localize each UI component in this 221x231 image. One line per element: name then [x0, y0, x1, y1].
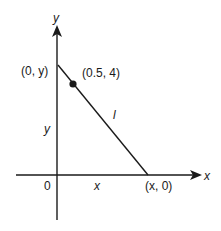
vertical-length-label: y — [43, 122, 51, 136]
point-marker — [69, 80, 76, 87]
line-l-label: l — [113, 108, 116, 122]
y-axis-label: y — [52, 11, 60, 25]
coordinate-diagram: y x 0 (0, y) (0.5, 4) (x, 0) l y x — [0, 0, 221, 231]
horizontal-length-label: x — [93, 179, 101, 193]
x-intercept-label: (x, 0) — [145, 179, 172, 193]
given-point-label: (0.5, 4) — [82, 66, 120, 80]
y-intercept-label: (0, y) — [21, 64, 48, 78]
x-axis-label: x — [203, 169, 211, 183]
origin-label: 0 — [44, 179, 51, 193]
